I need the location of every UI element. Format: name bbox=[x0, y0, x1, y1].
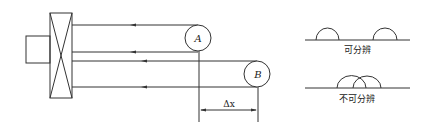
dimension-arrow-right-icon bbox=[251, 109, 257, 112]
diagram-canvas: A B Δx 可分辨 不可分辨 bbox=[0, 0, 433, 131]
unresolvable-peak-1 bbox=[337, 76, 366, 88]
unresolvable-label: 不可分辨 bbox=[339, 93, 375, 104]
circle-b-label: B bbox=[253, 69, 261, 80]
arrow-left-icon bbox=[141, 60, 147, 63]
emitter-housing bbox=[26, 36, 50, 63]
unresolvable-peak-2 bbox=[353, 76, 381, 88]
circle-a-label: A bbox=[193, 33, 201, 44]
resolvable-peak-2 bbox=[373, 28, 397, 40]
resolvable-peak-1 bbox=[316, 28, 339, 40]
arrow-left-icon bbox=[130, 51, 136, 54]
arrow-left-icon bbox=[141, 86, 147, 89]
dimension-label: Δx bbox=[223, 99, 235, 109]
arrow-icons bbox=[130, 24, 147, 89]
crossed-box bbox=[50, 13, 72, 98]
arrow-left-icon bbox=[130, 24, 136, 27]
dimension-arrow-left-icon bbox=[200, 109, 206, 112]
resolvable-label: 可分辨 bbox=[344, 44, 371, 55]
